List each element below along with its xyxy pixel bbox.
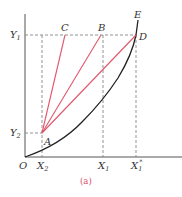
- y-tick-Y2: Y2: [10, 127, 21, 140]
- line-AB: [42, 35, 101, 133]
- point-label-E: E: [133, 9, 142, 20]
- y-tick-Y1: Y1: [10, 29, 21, 42]
- dashed-guides: [25, 35, 136, 157]
- x-tick-X1-star: X1*: [130, 158, 143, 173]
- line-AD: [42, 35, 136, 133]
- point-label-C: C: [61, 22, 69, 33]
- x-tick-X1: X1: [97, 160, 109, 173]
- operating-lines: [42, 35, 136, 133]
- figure-caption: (a): [80, 176, 92, 186]
- line-AC: [42, 35, 65, 133]
- point-label-D: D: [138, 31, 147, 42]
- point-label-A: A: [43, 136, 51, 147]
- origin-label: O: [19, 160, 27, 171]
- point-label-B: B: [97, 22, 105, 33]
- diagram-figure: C B D E A O Y1 Y2 X2 X1 X1* (a): [0, 0, 182, 197]
- x-tick-X2: X2: [36, 160, 48, 173]
